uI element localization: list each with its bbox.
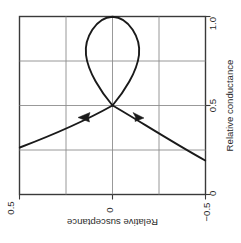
- axis-title-susceptance: Relative susceptance: [67, 217, 158, 228]
- ticklabel-conductance-1p0: 1.0: [207, 17, 218, 30]
- ticklabel-conductance-0: 0: [207, 191, 218, 196]
- ticklabel-susceptance-0p5: 0.5: [5, 201, 16, 214]
- ticks-susceptance: [20, 195, 206, 200]
- chart-canvas: 0.5 0 −0.5 0 0.5 1.0 Relative susceptanc…: [0, 0, 241, 243]
- conductance-ticklabels: 0 0.5 1.0: [207, 17, 218, 196]
- ticklabel-susceptance-neg0p5: −0.5: [201, 203, 212, 222]
- ticklabel-susceptance-0: 0: [104, 207, 115, 212]
- ticklabel-conductance-0p5: 0.5: [207, 99, 218, 112]
- axis-title-conductance: Relative conductance: [224, 60, 235, 152]
- chart-figure: 0.5 0 −0.5 0 0.5 1.0 Relative susceptanc…: [0, 0, 241, 243]
